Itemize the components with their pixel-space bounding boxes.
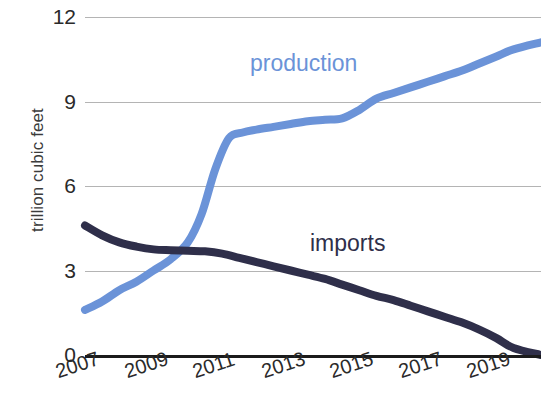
x-axis-tick-labels: 2007200920112013201520172019: [0, 0, 541, 403]
x-tick-label: 2007: [53, 348, 102, 381]
x-tick-label: 2015: [327, 348, 376, 381]
line-chart: trillion cubic feet 036912 production im…: [0, 0, 541, 403]
x-tick-label: 2017: [396, 348, 445, 381]
x-tick-label: 2019: [464, 348, 513, 381]
x-tick-label: 2011: [190, 349, 237, 381]
x-tick-label: 2013: [259, 348, 308, 381]
x-tick-label: 2009: [122, 348, 171, 381]
